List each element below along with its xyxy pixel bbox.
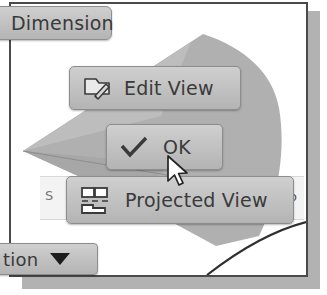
checkmark-icon xyxy=(119,134,149,160)
geometry-arc xyxy=(207,222,306,275)
chevron-down-icon xyxy=(50,253,70,265)
menu-item-projected-view[interactable]: Projected View xyxy=(66,176,294,224)
menu-item-ok[interactable]: OK xyxy=(106,124,223,170)
screen-root: S o Edit View OK xyxy=(0,0,327,295)
menu-item-label: Projected View xyxy=(125,189,268,211)
status-bar-selection-label: tion xyxy=(3,249,38,270)
field-left-text: S xyxy=(45,188,53,203)
toolbar-button-label: Dimension xyxy=(11,12,114,34)
edit-view-icon xyxy=(82,74,112,102)
toolbar-button-dimension[interactable]: Dimension xyxy=(0,6,112,40)
status-bar-selection-dropdown[interactable]: tion xyxy=(0,243,98,275)
menu-item-label: Edit View xyxy=(124,77,214,99)
menu-item-edit-view[interactable]: Edit View xyxy=(69,66,241,110)
projected-view-icon xyxy=(79,184,111,216)
drawing-frame: S o Edit View OK xyxy=(9,2,308,277)
menu-item-label: OK xyxy=(163,136,191,158)
